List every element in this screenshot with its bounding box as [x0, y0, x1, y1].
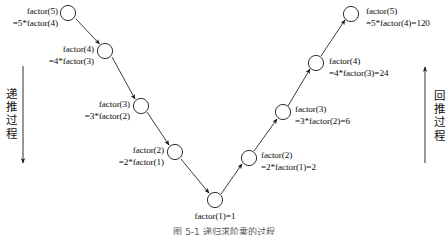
edge-f4-up-f5	[321, 20, 345, 56]
label-factor-3-up-line1: factor(3)	[295, 104, 326, 114]
descent-process-char-3: 过	[3, 114, 19, 127]
backtrack-process-label: 回 推 过 程	[431, 90, 447, 143]
node-factor-5-down	[60, 5, 75, 20]
figure-caption: 图 5-1 递归求阶乘的过程	[0, 225, 448, 235]
backtrack-process-char-3: 过	[431, 116, 447, 129]
label-factor-4-down-line2: =4*factor(3)	[34, 56, 94, 68]
edge-f2-f1	[181, 159, 209, 193]
backtrack-process-char-4: 程	[431, 130, 447, 143]
label-factor-2-up-line2: =2*factor(1)=2	[261, 162, 316, 174]
node-factor-2-down	[167, 144, 182, 159]
edge-f4-f3	[112, 57, 135, 99]
label-factor-4-down: factor(4) =4*factor(3)	[34, 44, 94, 67]
edge-f3-f2	[147, 112, 169, 145]
descent-process-char-4: 程	[3, 128, 19, 141]
label-factor-5-up-line1: factor(5)	[366, 6, 397, 16]
recursion-diagram	[0, 0, 448, 235]
descent-nodes	[60, 5, 182, 159]
label-factor-2-up-line1: factor(2)	[261, 150, 292, 160]
label-factor-4-up-line1: factor(4)	[329, 56, 360, 66]
label-factor-2-up: factor(2) =2*factor(1)=2	[261, 150, 316, 173]
label-factor-4-up: factor(4) =4*factor(3)=24	[329, 56, 388, 79]
label-factor-2-down-line2: =2*factor(1)	[104, 157, 164, 169]
node-factor-3-up	[275, 104, 290, 119]
label-factor-5-up-line2: =5*factor(4)=120	[366, 18, 430, 30]
node-factor-1-base	[207, 192, 222, 207]
node-factor-5-up	[343, 6, 358, 21]
label-factor-4-up-line2: =4*factor(3)=24	[329, 68, 388, 80]
node-factor-3-down	[133, 98, 148, 113]
edge-f3-up-f4	[288, 69, 310, 106]
label-factor-3-down-line2: =3*factor(2)	[70, 111, 130, 123]
label-factor-5-up: factor(5) =5*factor(4)=120	[366, 6, 430, 29]
node-factor-4-down	[97, 43, 112, 58]
label-factor-5-down: factor(5) =5*factor(4)	[0, 6, 58, 29]
label-factor-5-down-line1: factor(5)	[27, 6, 58, 16]
label-factor-2-down: factor(2) =2*factor(1)	[104, 145, 164, 168]
label-factor-1-base: factor(1)=1	[175, 211, 255, 223]
label-factor-3-down: factor(3) =3*factor(2)	[70, 99, 130, 122]
label-factor-5-down-line2: =5*factor(4)	[0, 18, 58, 30]
descent-process-label: 递 推 过 程	[3, 88, 19, 141]
label-factor-2-down-line1: factor(2)	[133, 145, 164, 155]
label-factor-3-up-line2: =3*factor(2)=6	[295, 116, 350, 128]
node-factor-4-up	[308, 55, 323, 70]
edge-f2-up-f3	[254, 119, 277, 151]
label-factor-3-down-line1: factor(3)	[99, 99, 130, 109]
label-factor-1-base-text: factor(1)=1	[195, 211, 236, 221]
edge-f1-up-f2	[221, 164, 242, 194]
edge-f5-f4	[76, 19, 100, 44]
label-factor-4-down-line1: factor(4)	[63, 44, 94, 54]
node-factor-2-up	[241, 150, 256, 165]
label-factor-3-up: factor(3) =3*factor(2)=6	[295, 104, 350, 127]
figure-canvas: factor(5) =5*factor(4) factor(4) =4*fact…	[0, 0, 448, 235]
